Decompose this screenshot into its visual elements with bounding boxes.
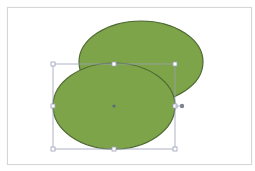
handle-bottom-left[interactable] (51, 147, 55, 151)
handle-top-middle[interactable] (112, 62, 116, 66)
handle-middle-left[interactable] (51, 104, 55, 108)
rotation-handle-icon[interactable] (180, 104, 184, 108)
handle-bottom-right[interactable] (173, 147, 177, 151)
handle-top-left[interactable] (51, 62, 55, 66)
center-point-icon (112, 104, 115, 107)
handle-bottom-middle[interactable] (112, 147, 116, 151)
handle-top-right[interactable] (173, 62, 177, 66)
drawing-layer (0, 0, 255, 171)
